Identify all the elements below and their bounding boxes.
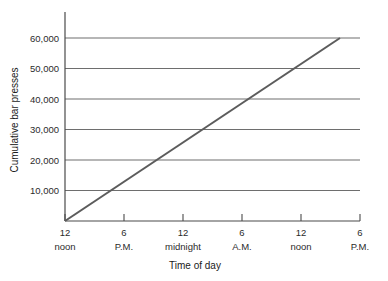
x-tick-label-period-3: A.M.: [232, 241, 252, 252]
x-tick-label-period-1: P.M.: [115, 241, 133, 252]
x-tick-labels-period: noon P.M. midnight A.M. noon P.M.: [54, 241, 369, 252]
x-tick-label-hour-5: 6: [357, 227, 362, 238]
y-tick-label-10000: 10,000: [30, 185, 59, 196]
x-tick-label-hour-1: 6: [121, 227, 126, 238]
chart-canvas: 60,000 50,000 40,000 30,000 20,000 10,00…: [0, 0, 388, 281]
y-tick-label-30000: 30,000: [30, 124, 59, 135]
x-tick-labels-hour: 12 6 12 6 12 6: [60, 227, 363, 238]
y-tick-labels: 60,000 50,000 40,000 30,000 20,000 10,00…: [30, 33, 59, 197]
x-tick-label-hour-0: 12: [60, 227, 71, 238]
x-tick-label-period-2: midnight: [165, 241, 201, 252]
x-tickmarks: [65, 214, 360, 221]
y-tick-label-60000: 60,000: [30, 33, 59, 44]
y-tick-label-20000: 20,000: [30, 155, 59, 166]
y-tick-label-50000: 50,000: [30, 63, 59, 74]
x-tick-label-hour-3: 6: [239, 227, 244, 238]
y-tick-label-40000: 40,000: [30, 94, 59, 105]
x-tick-label-hour-2: 12: [178, 227, 189, 238]
x-tick-label-hour-4: 12: [296, 227, 307, 238]
x-tick-label-period-4: noon: [290, 241, 311, 252]
x-axis-title: Time of day: [169, 260, 221, 271]
cumulative-record-chart: 60,000 50,000 40,000 30,000 20,000 10,00…: [0, 0, 388, 281]
y-axis-title: Cumulative bar presses: [9, 67, 20, 172]
axis-lines: [65, 12, 360, 221]
x-tick-label-period-0: noon: [54, 241, 75, 252]
x-tick-label-period-5: P.M.: [351, 241, 369, 252]
gridlines: [65, 38, 360, 191]
